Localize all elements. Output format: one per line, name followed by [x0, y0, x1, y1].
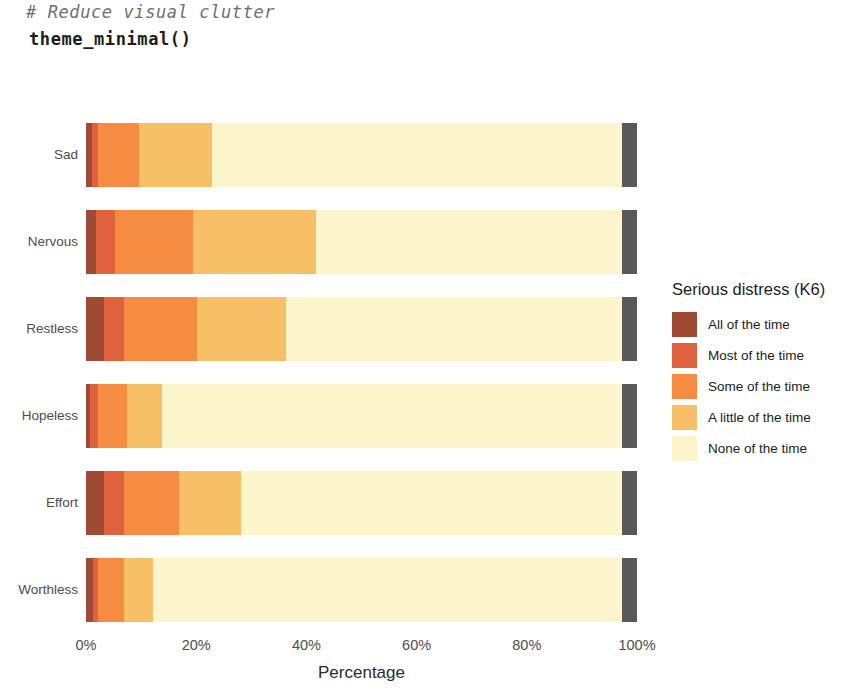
x-axis-tick-label: 0%: [76, 637, 97, 653]
x-axis-tick-label: 80%: [512, 637, 541, 653]
bar-segment: [179, 471, 241, 535]
bar-segment: [139, 123, 211, 187]
chart-plot-area: SadNervousRestlessHopelessEffortWorthles…: [0, 90, 859, 690]
legend-item-label: None of the time: [708, 441, 807, 456]
bar-segment: [86, 471, 104, 535]
legend-item: None of the time: [672, 433, 857, 464]
stacked-bar: [86, 297, 637, 361]
y-axis-label-group: SadNervousRestlessHopelessEffortWorthles…: [0, 110, 78, 631]
legend-color-swatch: [672, 374, 697, 399]
bar-segment: [193, 210, 316, 274]
y-axis-tick-label: Sad: [2, 148, 78, 162]
bars-panel: [86, 110, 637, 631]
stacked-bar: [86, 471, 637, 535]
bar-segment: [115, 210, 194, 274]
x-axis-tick-label: 40%: [292, 637, 321, 653]
x-axis-tick-label: 60%: [402, 637, 431, 653]
bar-segment: [90, 384, 97, 448]
bar-segment: [162, 384, 622, 448]
bar-segment: [98, 558, 124, 622]
chart-legend: Serious distress (K6) All of the timeMos…: [672, 280, 857, 464]
code-comment-line: # Reduce visual clutter: [26, 2, 275, 22]
bar-segment: [104, 471, 124, 535]
bar-row: [86, 297, 637, 361]
stacked-bar: [86, 210, 637, 274]
stacked-bar: [86, 123, 637, 187]
code-snippet: # Reduce visual clutter theme_minimal(): [0, 0, 859, 72]
legend-item-label: All of the time: [708, 317, 790, 332]
y-axis-tick-label: Restless: [2, 322, 78, 336]
bar-segment: [98, 123, 140, 187]
bar-row: [86, 471, 637, 535]
bar-segment: [124, 471, 179, 535]
legend-color-swatch: [672, 405, 697, 430]
bar-segment: [622, 123, 637, 187]
bar-row: [86, 123, 637, 187]
bar-segment: [241, 471, 622, 535]
legend-item: All of the time: [672, 309, 857, 340]
bar-segment: [86, 558, 93, 622]
bar-segment: [197, 297, 286, 361]
bar-segment: [622, 384, 637, 448]
y-axis-tick-label: Nervous: [2, 235, 78, 249]
legend-item: Some of the time: [672, 371, 857, 402]
legend-color-swatch: [672, 312, 697, 337]
x-axis-tick-label: 20%: [182, 637, 211, 653]
bar-segment: [622, 558, 637, 622]
code-function-call-line: theme_minimal(): [29, 29, 192, 49]
stacked-bar: [86, 558, 637, 622]
legend-item-label: A little of the time: [708, 410, 811, 425]
legend-title: Serious distress (K6): [672, 280, 857, 299]
bar-segment: [98, 384, 127, 448]
x-axis-title: Percentage: [86, 663, 637, 683]
bar-segment: [104, 297, 124, 361]
bar-segment: [622, 471, 637, 535]
bar-segment: [127, 384, 162, 448]
bar-segment: [124, 558, 153, 622]
legend-color-swatch: [672, 343, 697, 368]
legend-item-label: Some of the time: [708, 379, 810, 394]
y-axis-tick-label: Effort: [2, 496, 78, 510]
bar-segment: [622, 210, 637, 274]
y-axis-tick-label: Hopeless: [2, 409, 78, 423]
legend-item: Most of the time: [672, 340, 857, 371]
bar-row: [86, 558, 637, 622]
bar-row: [86, 384, 637, 448]
stacked-bar: [86, 384, 637, 448]
x-axis-tick-label: 100%: [618, 637, 655, 653]
bar-segment: [286, 297, 622, 361]
y-axis-tick-label: Worthless: [2, 583, 78, 597]
legend-item-list: All of the timeMost of the timeSome of t…: [672, 309, 857, 464]
bar-segment: [622, 297, 637, 361]
x-axis-tick-group: 0%20%40%60%80%100%: [86, 637, 637, 661]
legend-item: A little of the time: [672, 402, 857, 433]
legend-color-swatch: [672, 436, 697, 461]
bar-segment: [86, 297, 104, 361]
bar-segment: [96, 210, 114, 274]
bar-segment: [86, 210, 96, 274]
bar-row: [86, 210, 637, 274]
bar-segment: [212, 123, 622, 187]
bar-segment: [316, 210, 622, 274]
bar-segment: [153, 558, 622, 622]
legend-item-label: Most of the time: [708, 348, 804, 363]
bar-segment: [124, 297, 197, 361]
